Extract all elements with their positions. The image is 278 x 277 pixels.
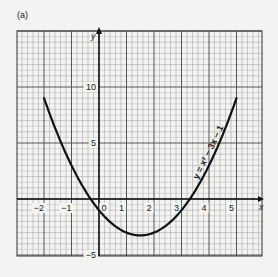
- equation-label: y = x² − 3x − 1: [191, 124, 226, 181]
- x-tick-label: 3: [174, 203, 179, 213]
- parabola-chart: −2−1012345105−5xy y = x² − 3x − 1: [0, 0, 278, 277]
- x-tick-label: −1: [61, 203, 71, 213]
- y-tick-label: −5: [86, 250, 96, 260]
- y-tick-label: 5: [91, 138, 96, 148]
- x-tick-label: 0: [101, 203, 106, 213]
- x-tick-label: 1: [119, 203, 124, 213]
- tick-labels: −2−1012345105−5xy: [32, 31, 264, 260]
- x-tick-label: 2: [146, 203, 151, 213]
- x-axis-label: x: [258, 202, 264, 212]
- x-tick-label: −2: [34, 203, 44, 213]
- x-tick-label: 5: [229, 203, 234, 213]
- parabola-curve: [44, 98, 237, 235]
- y-axis-label: y: [90, 31, 96, 41]
- y-tick-label: 10: [86, 82, 96, 92]
- x-tick-label: 4: [201, 203, 206, 213]
